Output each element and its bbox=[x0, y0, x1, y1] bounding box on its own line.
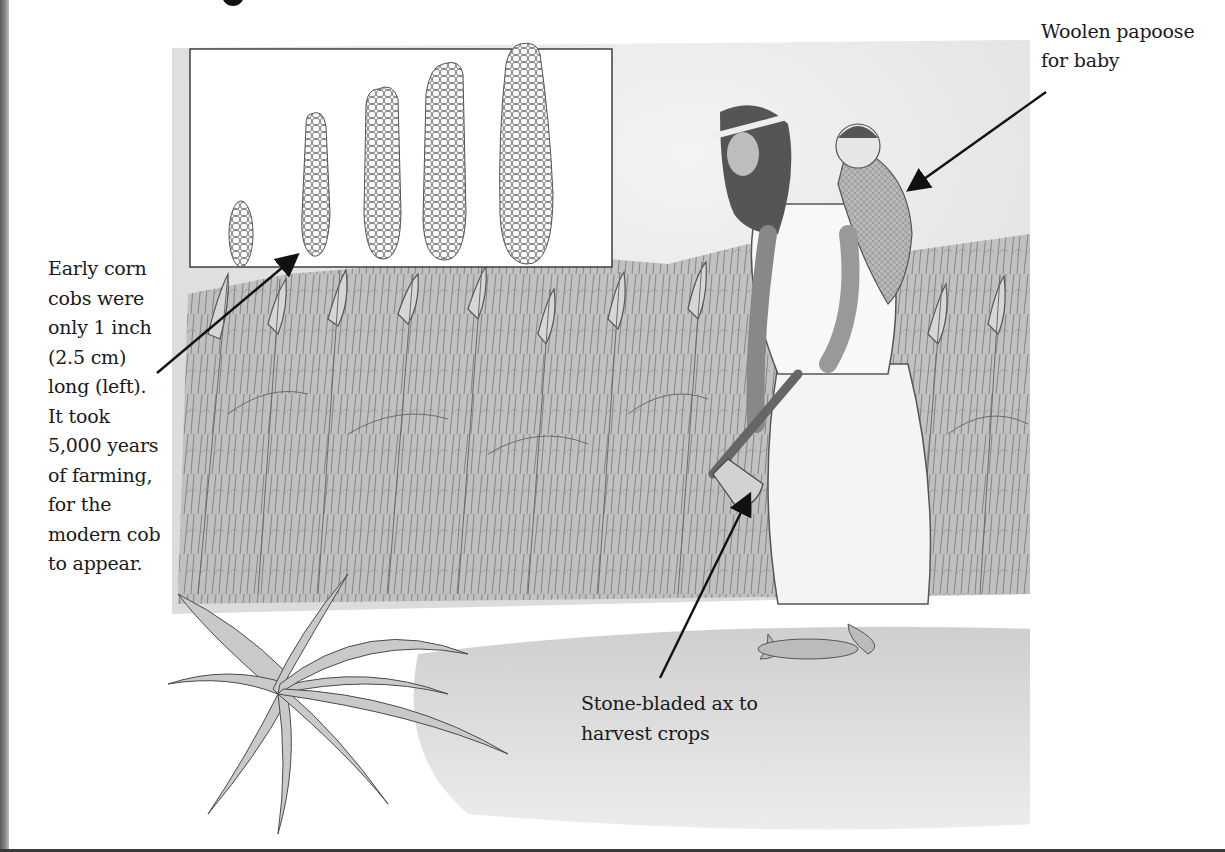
page-edge-shadow bbox=[0, 0, 9, 852]
caption-line: long (left). bbox=[48, 372, 160, 402]
caption-line: harvest crops bbox=[581, 718, 758, 748]
heading-fragment bbox=[222, 0, 244, 6]
caption-line: to appear. bbox=[48, 549, 160, 579]
corn-caption: Early corn cobs were only 1 inch (2.5 cm… bbox=[48, 254, 160, 579]
caption-line: 5,000 years bbox=[48, 431, 160, 461]
caption-line: It took bbox=[48, 402, 160, 432]
caption-line: only 1 inch bbox=[48, 313, 160, 343]
ax-caption: Stone-bladed ax to harvest crops bbox=[581, 688, 758, 748]
caption-line: (2.5 cm) bbox=[48, 343, 160, 373]
caption-line: for baby bbox=[1041, 46, 1194, 75]
caption-line: for the bbox=[48, 490, 160, 520]
caption-line: Stone-bladed ax to bbox=[581, 688, 758, 718]
caption-line: Woolen papoose bbox=[1041, 17, 1194, 46]
caption-line: cobs were bbox=[48, 284, 160, 314]
caption-line: of farming, bbox=[48, 461, 160, 491]
corn-cob-inset bbox=[190, 43, 612, 267]
papoose-caption: Woolen papoose for baby bbox=[1041, 17, 1194, 75]
caption-line: Early corn bbox=[48, 254, 160, 284]
caption-line: modern cob bbox=[48, 520, 160, 550]
